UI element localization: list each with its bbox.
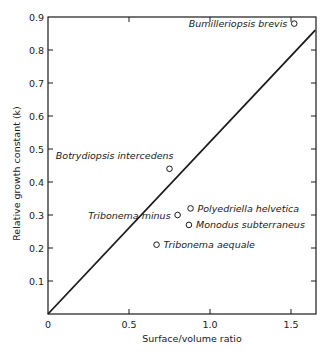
y-tick-label: 0.5 — [29, 144, 44, 155]
data-points: Bumilleriopsis brevisBotrydiopsis interc… — [56, 18, 305, 250]
y-tick-label: 0.8 — [29, 45, 44, 56]
point-label: Tribonema minus — [88, 210, 170, 221]
y-tick-label: 0.7 — [29, 78, 44, 89]
point-label: Polyedriella helvetica — [198, 203, 300, 214]
point-marker-circle — [175, 212, 181, 218]
regression-line — [48, 30, 315, 314]
point-marker-circle — [188, 206, 194, 212]
point-label: Tribonema aequale — [164, 239, 256, 250]
y-tick-label: 0.1 — [29, 276, 44, 287]
x-axis-label: Surface/volume ratio — [142, 333, 242, 344]
fit-line — [48, 30, 315, 314]
data-point: Polyedriella helvetica — [188, 203, 300, 214]
point-marker-circle — [291, 21, 297, 27]
x-tick-label: 1.5 — [283, 319, 298, 330]
x-tick-label: 0 — [45, 319, 51, 330]
y-tick-label: 0.3 — [29, 210, 44, 221]
plot-frame — [48, 17, 316, 314]
point-marker-circle — [186, 222, 192, 228]
point-marker-circle — [167, 166, 173, 172]
growth-vs-surface-volume-chart: 00.51.01.5 0.10.20.30.40.50.60.70.80.9 B… — [0, 0, 333, 354]
y-tick-label: 0.2 — [29, 243, 44, 254]
y-tick-label: 0.9 — [29, 12, 44, 23]
data-point: Bumilleriopsis brevis — [189, 18, 297, 29]
data-point: Tribonema aequale — [154, 239, 255, 250]
y-tick-label: 0.6 — [29, 111, 44, 122]
point-label: Bumilleriopsis brevis — [189, 18, 288, 29]
data-point: Monodus subterraneus — [186, 219, 305, 230]
point-marker-circle — [154, 242, 160, 248]
x-axis-ticks: 00.51.01.5 — [45, 17, 299, 330]
data-point: Tribonema minus — [88, 210, 180, 221]
plot-border — [48, 17, 316, 314]
data-point: Botrydiopsis intercedens — [56, 150, 174, 172]
y-axis-label: Relative growth constant (k) — [11, 106, 22, 241]
y-tick-label: 0.4 — [29, 177, 44, 188]
x-tick-label: 1.0 — [202, 319, 217, 330]
x-tick-label: 0.5 — [121, 319, 136, 330]
point-label: Monodus subterraneus — [196, 219, 305, 230]
point-label: Botrydiopsis intercedens — [56, 150, 174, 161]
